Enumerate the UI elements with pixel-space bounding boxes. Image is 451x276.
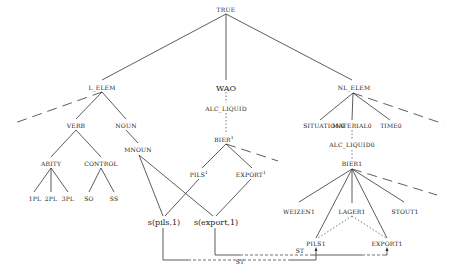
node-3pl: 3PL (62, 195, 74, 202)
node-so: SO (84, 195, 93, 202)
edge-lelem-verb (76, 92, 102, 119)
edge-noun-mnoun (126, 130, 138, 143)
node-s-pils: s(pils,1) (148, 218, 180, 227)
node-s-export: s(export,1) (194, 218, 238, 227)
node-arity: ARITY (40, 160, 62, 167)
st-link-export-solid (215, 228, 240, 255)
node-material0: MATERIAL0 (332, 122, 371, 129)
edge-control-ss (101, 168, 114, 192)
node-weizen1: WEIZEN1 (283, 208, 315, 215)
node-2pl: 2PL (45, 195, 57, 202)
node-mnoun: MNOUN (124, 146, 152, 153)
edge-bier-export (226, 144, 252, 168)
edge-lelem-noun (102, 92, 126, 119)
edge-arity-1pl (34, 168, 51, 192)
hierarchy-diagram: TRUE L_ELEM WAO NL_ELEM ALC_LIQUID BIER1… (0, 0, 451, 276)
arrow-pils1-icon (315, 247, 318, 251)
node-bier-sup1: BIER1 (214, 135, 234, 143)
edge-mnoun-spils (139, 155, 163, 216)
edge-arity-3pl (51, 168, 68, 192)
node-noun: NOUN (115, 122, 136, 129)
node-lager1: LAGER1 (338, 208, 365, 215)
node-nl-elem: NL_ELEM (338, 84, 371, 92)
edge-pils-spils (165, 179, 199, 216)
node-stout1: STOUT1 (391, 208, 418, 215)
edge-export-sexport (216, 179, 251, 216)
node-export-sup1: EXPORT1 (236, 170, 266, 178)
edge-true-nlelem (226, 14, 352, 80)
edge-bier-more (226, 144, 278, 161)
node-alc-liquid0: ALC_LIQUID0 (328, 141, 374, 149)
edge-true-lelem (102, 14, 226, 80)
node-ss: SS (110, 195, 119, 202)
node-control: CONTROL (84, 160, 118, 167)
node-alc-liquid: ALC_LIQUID (204, 105, 246, 113)
edge-nlelem-time (353, 93, 390, 120)
edge-lelem-more (12, 92, 102, 124)
node-1pl: 1PL (29, 195, 41, 202)
node-bier1: BIER1 (342, 160, 363, 167)
node-export1: EXPORT1 (371, 240, 402, 247)
node-time0: TIME0 (380, 122, 402, 129)
relation-st-lower: ST (236, 258, 245, 265)
node-true: TRUE (217, 6, 236, 13)
edge-lager-export1 (352, 216, 386, 238)
relation-st-upper: ST (296, 247, 305, 254)
edge-verb-control (76, 130, 101, 157)
edge-nlelem-more (353, 93, 444, 124)
edge-bier-pils (202, 144, 226, 168)
node-l-elem: L_ELEM (88, 84, 115, 92)
edge-bier1-more (352, 169, 437, 195)
edge-bier1-weizen (299, 169, 352, 202)
node-verb: VERB (66, 122, 86, 129)
node-wao: WAO (216, 84, 237, 93)
edge-nlelem-material (352, 93, 353, 120)
edge-verb-arity (51, 130, 76, 157)
arrow-export1-icon (386, 247, 389, 251)
node-pils1: PILS1 (306, 240, 325, 247)
edge-lager-pils1 (318, 216, 352, 238)
edge-control-so (89, 168, 101, 192)
st-link-pils-solid (163, 228, 188, 260)
edge-mnoun-sexport (139, 155, 213, 216)
edge-bier1-stout (352, 169, 404, 202)
labels: TRUE L_ELEM WAO NL_ELEM ALC_LIQUID BIER1… (29, 6, 419, 265)
node-pils-sup1: PILS1 (190, 170, 208, 178)
edge-nlelem-situation (320, 93, 353, 120)
